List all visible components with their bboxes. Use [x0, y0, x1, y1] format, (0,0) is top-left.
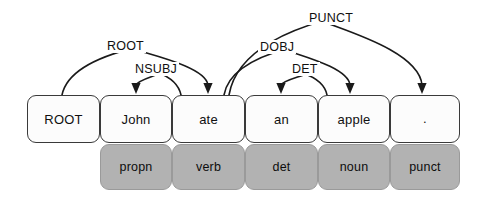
- word-label: .: [423, 115, 427, 123]
- arc-label-root: ROOT: [105, 39, 146, 53]
- word-box-ate: ate: [172, 95, 245, 143]
- arc-label-nsubj: NSUBJ: [133, 62, 179, 76]
- pos-box-verb: verb: [172, 144, 245, 190]
- word-box-an: an: [245, 95, 318, 143]
- dependency-parse-diagram: ROOTNSUBJDOBJPUNCTDET ROOTJohnpropnateve…: [0, 0, 482, 201]
- pos-label: punct: [409, 160, 441, 174]
- word-box-root: ROOT: [27, 95, 100, 143]
- arc-label-det: DET: [290, 62, 320, 76]
- word-label: ate: [199, 112, 218, 127]
- arrowhead-punct: [417, 83, 426, 94]
- pos-label: det: [273, 160, 291, 174]
- pos-label: propn: [120, 160, 153, 174]
- arrowhead-dobj: [345, 83, 354, 94]
- word-label: an: [274, 112, 289, 127]
- pos-box-noun: noun: [318, 144, 390, 190]
- word-box-apple: apple: [318, 95, 390, 143]
- arc-dobj: [224, 47, 350, 95]
- word-label: John: [122, 112, 151, 127]
- pos-label: verb: [196, 160, 221, 174]
- pos-label: noun: [340, 160, 369, 174]
- arc-label-punct: PUNCT: [307, 11, 355, 25]
- arc-punct: [229, 17, 422, 95]
- word-label: apple: [338, 112, 371, 127]
- word-box-john: John: [100, 95, 172, 143]
- arrowhead-det: [276, 83, 285, 94]
- arc-label-dobj: DOBJ: [258, 40, 296, 54]
- word-box-period: .: [390, 95, 460, 143]
- pos-box-punct: punct: [390, 144, 460, 190]
- pos-box-det: det: [245, 144, 318, 190]
- arc-det: [281, 73, 327, 95]
- word-label: ROOT: [44, 112, 82, 127]
- pos-box-propn: propn: [100, 144, 172, 190]
- arrowhead-root: [203, 83, 212, 94]
- arrowhead-nsubj: [131, 83, 140, 94]
